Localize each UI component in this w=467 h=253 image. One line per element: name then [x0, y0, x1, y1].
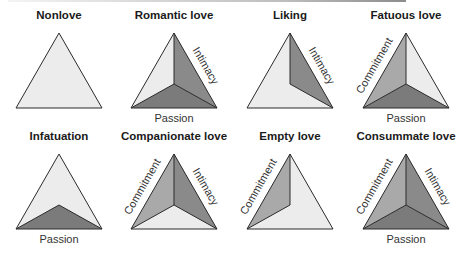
panel-romantic-love: Romantic lovePassionIntimacy [131, 9, 222, 124]
panel-empty-love: Empty loveCommitment [237, 130, 333, 229]
panel-nonlove: Nonlove [16, 9, 102, 108]
panel-title: Fatuous love [371, 9, 442, 21]
panel-liking: LikingIntimacy [247, 9, 338, 108]
panel-consummate-love: Consummate lovePassionIntimacyCommitment [353, 130, 455, 245]
panel-title: Empty love [259, 130, 320, 142]
passion-label: Passion [154, 112, 193, 124]
passion-label: Passion [39, 233, 78, 245]
panel-fatuous-love: Fatuous lovePassionCommitment [353, 9, 449, 124]
panel-companionate-love: Companionate loveIntimacyCommitment [121, 130, 227, 229]
love-triangles-diagram: NonloveRomantic lovePassionIntimacyLikin… [0, 0, 467, 253]
panel-title: Consummate love [356, 130, 455, 142]
triangle-background [16, 33, 102, 108]
passion-label: Passion [386, 112, 425, 124]
panel-title: Companionate love [121, 130, 227, 142]
panel-title: Infatuation [30, 130, 89, 142]
panel-title: Romantic love [135, 9, 214, 21]
panel-title: Liking [273, 9, 307, 21]
passion-label: Passion [386, 233, 425, 245]
panel-infatuation: InfatuationPassion [16, 130, 102, 245]
panel-title: Nonlove [36, 9, 81, 21]
